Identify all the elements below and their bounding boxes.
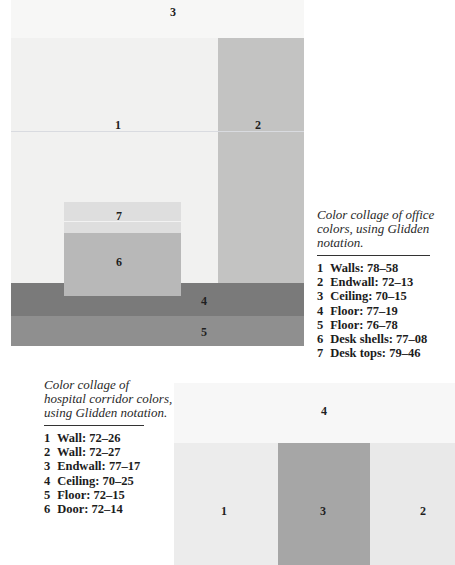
legend-item: 5 Floor: 76–78 (317, 318, 447, 332)
legend-text: Ceiling: 70–25 (57, 474, 134, 488)
office-desk-shells-swatch: 6 (64, 233, 181, 296)
swatch-label: 4 (321, 404, 327, 419)
legend-item: 1 Walls: 78–58 (317, 261, 447, 275)
office-desk-tops-swatch: 7 (64, 202, 181, 233)
legend-item: 7 Desk tops: 79–46 (317, 346, 447, 360)
caption-divider (44, 425, 144, 426)
legend-item: 2 Wall: 72–27 (44, 445, 174, 459)
office-endwall-swatch: 2 (218, 38, 304, 283)
legend-item: 6 Door: 72–14 (44, 502, 174, 516)
legend-number: 5 (44, 488, 54, 502)
legend-item: 2 Endwall: 72–13 (317, 275, 447, 289)
hospital-wall-left-swatch: 1 (174, 443, 278, 565)
legend-item: 1 Wall: 72–26 (44, 431, 174, 445)
legend-number: 3 (44, 459, 54, 473)
legend-number: 1 (44, 431, 54, 445)
scan-line (11, 131, 304, 132)
swatch-label: 6 (116, 255, 122, 270)
legend-text: Endwall: 72–13 (330, 275, 413, 289)
hospital-color-collage: 4 1 3 2 (174, 383, 455, 565)
swatch-label: 3 (170, 5, 176, 20)
office-floor-swatch: 5 (11, 316, 304, 346)
hospital-endwall-swatch: 3 (278, 443, 370, 565)
legend-item: 4 Ceiling: 70–25 (44, 474, 174, 488)
hospital-legend: 1 Wall: 72–26 2 Wall: 72–27 3 Endwall: 7… (44, 431, 174, 516)
legend-text: Desk shells: 77–08 (330, 332, 427, 346)
office-caption: Color collage of office colors, using Gl… (317, 208, 447, 360)
office-legend: 1 Walls: 78–58 2 Endwall: 72–13 3 Ceilin… (317, 261, 447, 360)
legend-number: 6 (44, 502, 54, 516)
legend-item: 6 Desk shells: 77–08 (317, 332, 447, 346)
legend-number: 2 (317, 275, 327, 289)
swatch-label: 2 (420, 504, 426, 519)
legend-number: 1 (317, 261, 327, 275)
legend-number: 2 (44, 445, 54, 459)
hospital-caption-title: Color collage of hospital corridor color… (44, 378, 174, 420)
swatch-label: 3 (320, 504, 326, 519)
legend-text: Walls: 78–58 (330, 261, 398, 275)
legend-text: Floor: 77–19 (330, 304, 398, 318)
office-ceiling-swatch: 3 (11, 0, 304, 38)
hospital-ceiling-swatch: 4 (174, 383, 455, 443)
swatch-label: 1 (221, 504, 227, 519)
hospital-wall-right-swatch: 2 (370, 443, 455, 565)
legend-item: 5 Floor: 72–15 (44, 488, 174, 502)
legend-number: 4 (44, 474, 54, 488)
legend-text: Endwall: 77–17 (57, 459, 140, 473)
swatch-label: 5 (201, 325, 207, 340)
office-color-collage: 3 1 2 4 5 7 6 (11, 0, 304, 346)
legend-item: 4 Floor: 77–19 (317, 304, 447, 318)
legend-number: 5 (317, 318, 327, 332)
legend-text: Ceiling: 70–15 (330, 289, 407, 303)
legend-text: Wall: 72–26 (57, 431, 121, 445)
hospital-caption: Color collage of hospital corridor color… (44, 378, 174, 516)
legend-number: 7 (317, 346, 327, 360)
desk-top-edge (64, 221, 181, 222)
legend-text: Floor: 72–15 (57, 488, 125, 502)
caption-divider (317, 255, 430, 256)
legend-text: Door: 72–14 (57, 502, 123, 516)
legend-number: 4 (317, 304, 327, 318)
swatch-label: 4 (201, 294, 207, 309)
legend-number: 3 (317, 289, 327, 303)
legend-text: Wall: 72–27 (57, 445, 121, 459)
legend-item: 3 Endwall: 77–17 (44, 459, 174, 473)
legend-item: 3 Ceiling: 70–15 (317, 289, 447, 303)
office-caption-title: Color collage of office colors, using Gl… (317, 208, 447, 250)
legend-text: Floor: 76–78 (330, 318, 398, 332)
legend-text: Desk tops: 79–46 (330, 346, 420, 360)
legend-number: 6 (317, 332, 327, 346)
